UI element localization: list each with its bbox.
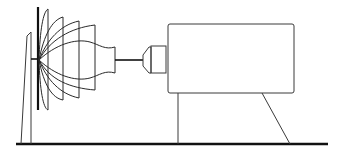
diagram-canvas [0, 0, 341, 156]
lens [143, 46, 166, 73]
device-body [168, 24, 294, 93]
screen-stand [21, 32, 38, 144]
body-legs [178, 93, 290, 144]
beam-pattern [39, 9, 115, 110]
